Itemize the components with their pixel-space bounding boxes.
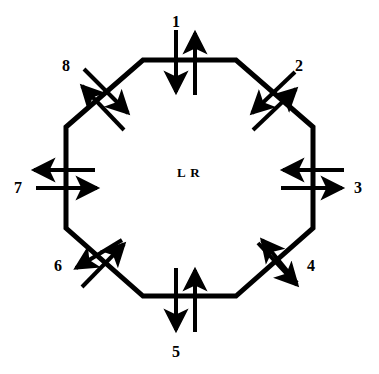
port-5-arrows (176, 268, 195, 332)
port-label-4: 4 (307, 258, 315, 274)
figure-canvas: L R 1 2 3 4 5 6 7 8 (0, 0, 379, 374)
port-label-2: 2 (295, 58, 303, 74)
port-label-3: 3 (354, 180, 362, 196)
port-6-arrows (76, 240, 124, 287)
port-label-7: 7 (14, 180, 22, 196)
octagon-ring-diagram (0, 0, 379, 374)
port-label-5: 5 (172, 344, 180, 360)
center-label: L R (177, 165, 201, 181)
port-label-8: 8 (62, 58, 70, 74)
port-label-1: 1 (172, 14, 180, 30)
port-label-6: 6 (54, 258, 62, 274)
